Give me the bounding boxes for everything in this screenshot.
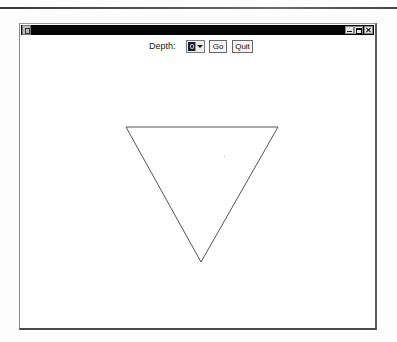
toolbar: Depth: 0 Go Quit: [20, 40, 375, 54]
minimize-button[interactable]: [345, 26, 354, 34]
chevron-down-icon[interactable]: [195, 42, 203, 51]
maximize-button[interactable]: [354, 26, 363, 34]
triangle-drawing: [20, 57, 375, 327]
quit-button[interactable]: Quit: [232, 40, 253, 53]
drawing-canvas: [20, 57, 375, 327]
close-button[interactable]: [364, 26, 373, 34]
app-window: Depth: 0 Go Quit: [19, 23, 377, 330]
scan-rule: [0, 7, 397, 9]
page: Depth: 0 Go Quit: [0, 0, 397, 342]
app-menu-icon[interactable]: [22, 25, 31, 35]
depth-label: Depth:: [149, 41, 176, 51]
go-button[interactable]: Go: [209, 40, 227, 53]
scan-speck: [224, 156, 225, 157]
title-bar[interactable]: [21, 25, 374, 35]
depth-select[interactable]: 0: [186, 40, 205, 53]
triangle-shape: [126, 127, 278, 262]
